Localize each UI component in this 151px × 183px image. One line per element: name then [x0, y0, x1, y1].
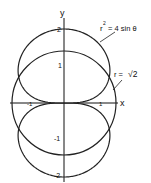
tick-y-2: 2 — [57, 26, 61, 33]
polar-plot: x y -1 1 2 1 -1 -2 r 2 = 4 sin θ r = √2 — [0, 0, 151, 183]
svg-text:√2: √2 — [128, 69, 138, 79]
tick-y-neg1: -1 — [54, 135, 60, 142]
svg-text:r =: r = — [114, 70, 124, 79]
x-axis-label: x — [120, 98, 125, 108]
tick-x-pos1: 1 — [99, 101, 103, 107]
tick-x-neg1: -1 — [27, 101, 33, 107]
tick-y-1: 1 — [58, 62, 62, 69]
tick-y-neg2: -2 — [54, 172, 60, 179]
annotation-circle: r = √2 — [113, 69, 138, 90]
svg-text:2: 2 — [103, 20, 106, 26]
svg-text:= 4 sin θ: = 4 sin θ — [108, 24, 137, 33]
y-axis-label: y — [60, 8, 65, 18]
annotation-lemniscate: r 2 = 4 sin θ — [100, 20, 137, 42]
